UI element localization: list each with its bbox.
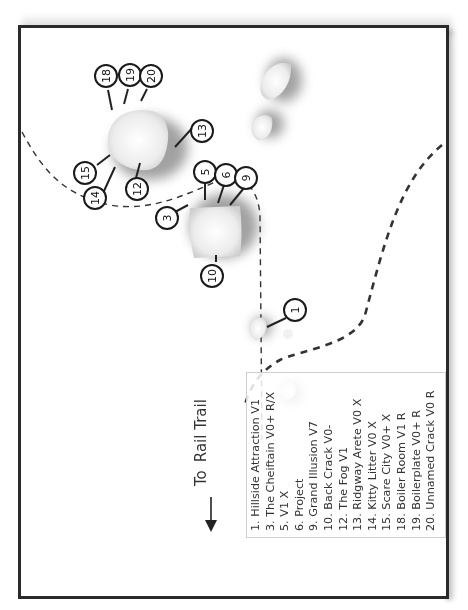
- boulder-tiny: [283, 329, 293, 339]
- marker-12[interactable]: 12: [126, 178, 148, 200]
- marker-3[interactable]: 3: [156, 207, 178, 229]
- svg-text:19: 19: [124, 68, 137, 82]
- legend-item: 12. The Fog V1: [337, 373, 352, 531]
- legend-item: 3. The Cheiftain V0+ R/X: [264, 373, 279, 531]
- svg-text:12: 12: [131, 182, 144, 196]
- legend-item: 19. Boilerplate V0+ R: [410, 373, 425, 531]
- svg-text:13: 13: [196, 124, 209, 138]
- marker-20[interactable]: 20: [140, 65, 162, 87]
- svg-text:3: 3: [161, 215, 174, 222]
- marker-5[interactable]: 5: [194, 161, 216, 183]
- direction-destination: Rail Trail: [192, 399, 210, 462]
- legend-item: 5. V1 X: [278, 373, 293, 531]
- marker-19[interactable]: 19: [119, 64, 141, 86]
- marker-10[interactable]: 10: [201, 265, 223, 287]
- marker-1[interactable]: 1: [284, 299, 306, 321]
- marker-15[interactable]: 15: [74, 162, 96, 184]
- direction-label: ToRail Trail: [192, 391, 210, 486]
- legend-item: 6. Project: [293, 373, 308, 531]
- svg-text:1: 1: [289, 307, 302, 314]
- marker-18[interactable]: 18: [95, 65, 117, 87]
- svg-text:15: 15: [79, 166, 92, 180]
- legend-item: 14. Kitty Litter V0 X: [366, 373, 381, 531]
- legend-item: 20. Unnamed Crack V0 R: [424, 373, 439, 531]
- direction-to: To: [192, 470, 210, 486]
- marker-9[interactable]: 9: [235, 167, 257, 189]
- marker-14[interactable]: 14: [84, 187, 106, 209]
- svg-text:5: 5: [199, 169, 212, 176]
- legend-item: 13. Ridgway Arete V0 X: [351, 373, 366, 531]
- route-legend: 1. Hillside Attraction V1 3. The Cheifta…: [246, 372, 446, 538]
- arrow-down-icon: [205, 497, 217, 532]
- svg-text:9: 9: [240, 175, 253, 182]
- legend-item: 10. Back Crack V0-: [322, 373, 337, 531]
- svg-text:14: 14: [89, 191, 102, 205]
- boulder-block: [190, 206, 242, 258]
- legend-item: 9. Grand Illusion V7: [307, 373, 322, 531]
- svg-text:6: 6: [220, 172, 233, 179]
- marker-6[interactable]: 6: [215, 164, 237, 186]
- svg-text:18: 18: [100, 69, 113, 83]
- legend-item: 18. Boiler Room V1 R: [395, 373, 410, 531]
- svg-text:20: 20: [145, 69, 158, 83]
- legend-item: 1. Hillside Attraction V1: [249, 373, 264, 531]
- trail-right-path: [245, 145, 442, 405]
- legend-item: 15. Scare City V0+ X: [380, 373, 395, 531]
- marker-13[interactable]: 13: [191, 120, 213, 142]
- svg-text:10: 10: [206, 269, 219, 283]
